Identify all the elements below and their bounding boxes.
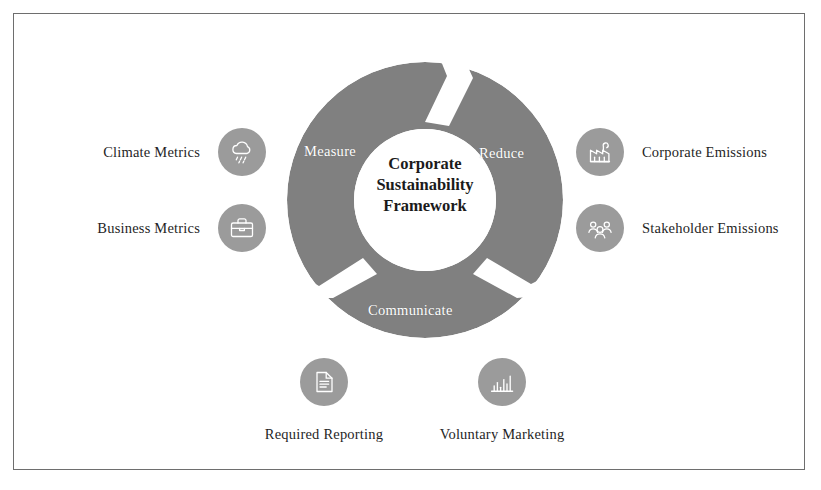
badge-business-metrics bbox=[218, 204, 266, 252]
badge-climate-metrics bbox=[218, 128, 266, 176]
node-climate-metrics[interactable]: Climate Metrics bbox=[14, 128, 266, 176]
center-title: Corporate Sustainability Framework bbox=[353, 154, 497, 216]
node-voluntary-marketing[interactable]: Voluntary Marketing bbox=[424, 358, 580, 443]
cycle-donut: Measure Reduce Communicate Corporate Sus… bbox=[287, 62, 563, 338]
badge-required-reporting bbox=[300, 358, 348, 406]
node-label-voluntary-marketing: Voluntary Marketing bbox=[440, 426, 565, 443]
briefcase-icon bbox=[227, 213, 257, 243]
node-label-corporate-emissions: Corporate Emissions bbox=[642, 144, 767, 161]
factory-icon bbox=[585, 137, 615, 167]
node-label-stakeholder-emissions: Stakeholder Emissions bbox=[642, 220, 779, 237]
center-title-line-2: Sustainability bbox=[353, 175, 497, 196]
center-title-line-3: Framework bbox=[353, 196, 497, 217]
node-stakeholder-emissions[interactable]: Stakeholder Emissions bbox=[576, 204, 779, 252]
diagram-frame: Measure Reduce Communicate Corporate Sus… bbox=[13, 13, 805, 470]
node-corporate-emissions[interactable]: Corporate Emissions bbox=[576, 128, 767, 176]
node-label-required-reporting: Required Reporting bbox=[265, 426, 383, 443]
badge-voluntary-marketing bbox=[478, 358, 526, 406]
badge-stakeholder-emissions bbox=[576, 204, 624, 252]
badge-corporate-emissions bbox=[576, 128, 624, 176]
node-label-business-metrics: Business Metrics bbox=[97, 220, 200, 237]
diagram-canvas: Measure Reduce Communicate Corporate Sus… bbox=[0, 0, 821, 490]
node-required-reporting[interactable]: Required Reporting bbox=[246, 358, 402, 443]
cloud-rain-icon bbox=[227, 137, 257, 167]
node-business-metrics[interactable]: Business Metrics bbox=[14, 204, 266, 252]
center-title-line-1: Corporate bbox=[353, 154, 497, 175]
segment-label-communicate: Communicate bbox=[368, 302, 453, 319]
document-icon bbox=[309, 367, 339, 397]
bar-chart-icon bbox=[487, 367, 517, 397]
node-label-climate-metrics: Climate Metrics bbox=[103, 144, 200, 161]
people-group-icon bbox=[585, 213, 615, 243]
segment-label-measure: Measure bbox=[304, 143, 356, 160]
